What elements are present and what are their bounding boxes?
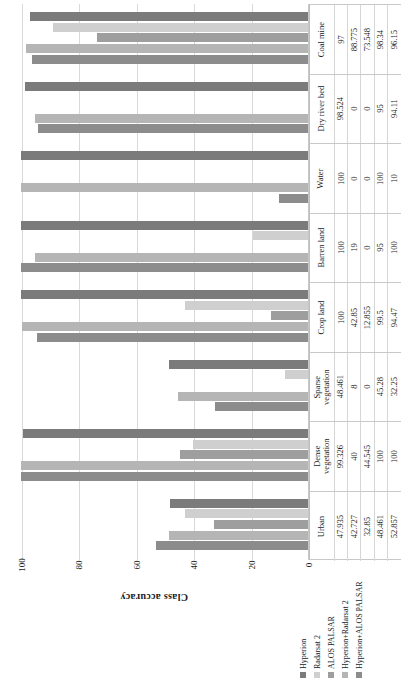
table-category-header: Water bbox=[309, 144, 335, 213]
table-row: Urban47.93542.72732.8548.46152.857 bbox=[309, 492, 401, 562]
bar-row bbox=[21, 322, 308, 331]
bar-row bbox=[21, 461, 308, 470]
legend-item[interactable]: Hyperion bbox=[296, 566, 310, 678]
legend-item[interactable]: ALOS PALSAR bbox=[324, 566, 338, 678]
legend-item[interactable]: Radarsat 2 bbox=[310, 566, 324, 678]
bar bbox=[35, 253, 308, 262]
table-cell: 95 bbox=[375, 214, 388, 283]
bar-row bbox=[21, 114, 308, 123]
legend-item[interactable]: Hyperion+Radarsat 2 bbox=[338, 566, 352, 678]
table-cell: 40 bbox=[348, 422, 361, 491]
legend-swatch-icon bbox=[342, 672, 348, 678]
axis-tick-label: 100 bbox=[17, 552, 27, 578]
table-row: Densevegetation99.3264044.545100100 bbox=[309, 422, 401, 492]
table-cell: 52.857 bbox=[388, 492, 401, 562]
bar-row bbox=[21, 333, 308, 342]
table-cell: 42.727 bbox=[348, 492, 361, 562]
bar-group bbox=[22, 282, 308, 352]
table-cell: 45.28 bbox=[375, 353, 388, 422]
bar-row bbox=[21, 124, 308, 133]
table-row: Sparsevegetation48.4618045.2832.25 bbox=[309, 353, 401, 423]
bar bbox=[215, 402, 308, 411]
table-cell: 94.47 bbox=[388, 283, 401, 352]
table-cell: 100 bbox=[388, 422, 401, 491]
bar-row bbox=[21, 311, 308, 320]
table-cell: 100 bbox=[335, 144, 348, 213]
table-cell: 0 bbox=[361, 75, 374, 144]
bar-row bbox=[21, 231, 308, 240]
bar-row bbox=[21, 12, 308, 21]
bar bbox=[97, 33, 308, 42]
table-category-header: Crop land bbox=[309, 283, 335, 352]
bar-group bbox=[22, 4, 308, 74]
table-cell: 12.855 bbox=[361, 283, 374, 352]
bar bbox=[23, 429, 308, 438]
bar bbox=[21, 221, 308, 230]
table-cell: 19 bbox=[348, 214, 361, 283]
bar bbox=[21, 461, 308, 470]
bar-row bbox=[21, 509, 308, 518]
table-cell: 88.775 bbox=[348, 5, 361, 74]
legend-label: Hyperion bbox=[299, 639, 308, 669]
table-cell: 44.545 bbox=[361, 422, 374, 491]
bar-row bbox=[21, 370, 308, 379]
legend-swatch-icon bbox=[356, 672, 362, 678]
bar bbox=[25, 82, 308, 91]
bar-row bbox=[21, 402, 308, 411]
bar-row bbox=[21, 301, 308, 310]
bar-row bbox=[21, 23, 308, 32]
table-cell: 0 bbox=[361, 144, 374, 213]
table-cell: 100 bbox=[375, 144, 388, 213]
table-category-header: Densevegetation bbox=[309, 422, 335, 491]
table-cell: 32.85 bbox=[361, 492, 374, 562]
axis-tick-label: 60 bbox=[132, 552, 142, 578]
bar-row bbox=[21, 172, 308, 181]
legend-swatch-icon bbox=[300, 672, 306, 678]
legend-label: Radarsat 2 bbox=[313, 635, 322, 669]
table-row: Coal mine9788.77573.54898.3496.15 bbox=[309, 5, 401, 75]
bar bbox=[26, 44, 308, 53]
table-cell: 100 bbox=[335, 214, 348, 283]
bar-row bbox=[21, 541, 308, 550]
bar bbox=[180, 450, 308, 459]
legend-item[interactable]: Hyperion+ALOS PALSAR bbox=[352, 566, 366, 678]
bar bbox=[170, 499, 308, 508]
legend-label: Hyperion+Radarsat 2 bbox=[341, 600, 350, 669]
bar-row bbox=[21, 290, 308, 299]
table-row: Water1000010010 bbox=[309, 144, 401, 214]
bar bbox=[178, 392, 308, 401]
table-cell: 96.15 bbox=[388, 5, 401, 74]
legend-swatch-icon bbox=[328, 672, 334, 678]
bar bbox=[271, 311, 308, 320]
bar-group bbox=[22, 352, 308, 422]
bar-row bbox=[21, 429, 308, 438]
bar-row bbox=[21, 472, 308, 481]
table-cell: 100 bbox=[335, 283, 348, 352]
bar bbox=[32, 55, 308, 64]
table-cell: 98.524 bbox=[335, 75, 348, 144]
axis-tick-label: 40 bbox=[189, 552, 199, 578]
axis-tick-label: 80 bbox=[74, 552, 84, 578]
bar-group bbox=[22, 74, 308, 144]
bar-row bbox=[21, 499, 308, 508]
bar bbox=[193, 440, 308, 449]
chart-legend: HyperionRadarsat 2ALOS PALSARHyperion+Ra… bbox=[296, 566, 401, 692]
bar bbox=[156, 541, 308, 550]
bar bbox=[285, 370, 308, 379]
bar bbox=[21, 290, 308, 299]
table-cell: 0 bbox=[361, 214, 374, 283]
value-axis-title: Class accuracy bbox=[74, 592, 234, 603]
bar-group bbox=[22, 143, 308, 213]
table-cell: 0 bbox=[348, 144, 361, 213]
table-cell: 94.11 bbox=[388, 75, 401, 144]
table-cell: 42.85 bbox=[348, 283, 361, 352]
bar-row bbox=[21, 194, 308, 203]
bar bbox=[35, 114, 308, 123]
table-cell: 99.326 bbox=[335, 422, 348, 491]
legend-swatch-icon bbox=[314, 672, 320, 678]
value-axis-tick-labels: 100806040200 bbox=[22, 560, 309, 586]
bar bbox=[169, 531, 308, 540]
axis-tick-label: 20 bbox=[247, 552, 257, 578]
bar-row bbox=[21, 221, 308, 230]
bar-row bbox=[21, 263, 308, 272]
